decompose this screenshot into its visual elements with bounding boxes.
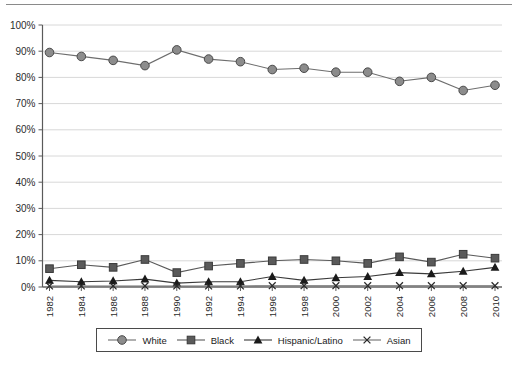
y-tick-label-50: 50% — [15, 151, 35, 162]
data-point-2000 — [332, 68, 341, 77]
y-tick-label-30: 30% — [15, 203, 35, 214]
y-tick-label-0: 0% — [21, 282, 36, 293]
data-point-2004 — [396, 253, 404, 261]
y-tick-label-40: 40% — [15, 177, 35, 188]
data-point-1982 — [45, 48, 54, 57]
data-point-2004 — [395, 268, 404, 276]
data-point-2002 — [364, 260, 372, 268]
legend-label: Black — [209, 335, 234, 346]
legend-label: Hispanic/Latino — [276, 335, 343, 346]
legend-label: White — [140, 335, 166, 346]
legend-item-asian[interactable]: Asian — [352, 333, 411, 347]
data-point-1998 — [300, 64, 309, 73]
line-chart: 0%10%20%30%40%50%60%70%80%90%100% 198219… — [0, 0, 518, 368]
y-tick-label-10: 10% — [15, 255, 35, 266]
triangle-marker-icon — [243, 333, 273, 347]
x-tick-label-2004: 2004 — [394, 296, 405, 317]
x-tick-label-2008: 2008 — [458, 296, 469, 317]
x-tick-label-2006: 2006 — [426, 296, 437, 317]
data-point-1986 — [109, 264, 117, 272]
x-marker-icon — [352, 333, 382, 347]
x-tick-label-1986: 1986 — [108, 296, 119, 317]
data-point-1988 — [141, 275, 150, 283]
data-point-2004 — [395, 77, 404, 86]
y-tick-label-100: 100% — [10, 20, 36, 31]
data-point-1994 — [236, 57, 245, 66]
y-axis-labels: 0%10%20%30%40%50%60%70%80%90%100% — [10, 20, 36, 293]
x-tick-label-1994: 1994 — [235, 296, 246, 317]
x-tick-label-1984: 1984 — [76, 296, 87, 317]
x-tick-label-1996: 1996 — [267, 296, 278, 317]
y-tick-label-80: 80% — [15, 72, 35, 83]
data-point-2000 — [332, 257, 340, 265]
legend-item-hispanic-latino[interactable]: Hispanic/Latino — [243, 333, 343, 347]
x-tick-label-1998: 1998 — [299, 296, 310, 317]
data-point-1992 — [204, 55, 213, 64]
data-point-1992 — [204, 277, 213, 285]
data-point-2006 — [427, 73, 436, 82]
data-point-1992 — [205, 262, 213, 270]
legend-label: Asian — [385, 335, 411, 346]
chart-page: 0%10%20%30%40%50%60%70%80%90%100% 198219… — [0, 0, 518, 368]
data-point-2006 — [428, 258, 436, 266]
data-point-1988 — [141, 61, 150, 70]
data-point-1998 — [300, 256, 308, 264]
data-point-2010 — [491, 81, 500, 90]
data-point-1982 — [46, 265, 54, 273]
data-point-2008 — [459, 86, 468, 95]
x-tick-label-2002: 2002 — [362, 296, 373, 317]
x-tick-label-2000: 2000 — [330, 296, 341, 317]
x-tick-label-1992: 1992 — [203, 296, 214, 317]
y-tick-label-60: 60% — [15, 124, 35, 135]
x-axis-labels: 1982198419861988199019921994199619982000… — [44, 296, 501, 317]
plot-svg: 0%10%20%30%40%50%60%70%80%90%100% 198219… — [0, 0, 518, 368]
y-tick-label-70: 70% — [15, 98, 35, 109]
data-point-1994 — [237, 260, 245, 268]
data-point-1984 — [78, 261, 86, 269]
legend-item-black[interactable]: Black — [176, 333, 234, 347]
legend-item-white[interactable]: White — [107, 333, 166, 347]
data-point-1990 — [173, 269, 181, 277]
data-point-1990 — [172, 46, 181, 55]
y-tick-label-90: 90% — [15, 46, 35, 57]
data-point-1986 — [109, 56, 118, 65]
chart-legend: WhiteBlackHispanic/LatinoAsian — [96, 328, 422, 352]
data-point-1988 — [141, 256, 149, 264]
data-point-2002 — [363, 68, 372, 77]
data-point-1996 — [268, 272, 277, 280]
data-point-2010 — [491, 263, 500, 271]
data-point-2010 — [491, 254, 499, 262]
data-point-1984 — [77, 52, 86, 61]
x-tick-label-1982: 1982 — [44, 296, 55, 317]
data-point-1996 — [268, 257, 276, 265]
data-point-2008 — [459, 250, 467, 258]
x-tick-label-2010: 2010 — [490, 296, 501, 317]
square-marker-icon — [176, 333, 206, 347]
data-series-layer — [45, 46, 499, 290]
y-tick-label-20: 20% — [15, 229, 35, 240]
series-white — [45, 46, 499, 95]
data-point-1996 — [268, 65, 277, 74]
x-tick-label-1990: 1990 — [171, 296, 182, 317]
x-tick-label-1988: 1988 — [139, 296, 150, 317]
circle-marker-icon — [107, 333, 137, 347]
